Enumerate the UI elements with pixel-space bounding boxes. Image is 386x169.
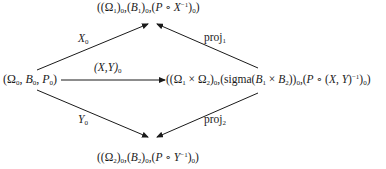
sigma-algebra-symbol: B	[131, 1, 138, 13]
omega-symbol: Ω	[105, 151, 114, 163]
edge-label-x0: X0	[78, 33, 89, 46]
subscript: 0	[214, 79, 218, 87]
sigma-function: sigma	[224, 73, 251, 85]
subscript: 2	[113, 157, 117, 165]
subscript: 2	[207, 79, 211, 87]
omega-symbol: Ω	[174, 73, 183, 85]
edge-label-main: (X,Y)	[94, 61, 118, 73]
subscript: 2	[223, 119, 227, 127]
subscript: 2	[138, 157, 142, 165]
subscript: 0	[50, 79, 54, 87]
subscript: 0	[121, 157, 125, 165]
edge-label-main: X	[78, 32, 85, 44]
node-top-space: ((Ω1)0,(B1)0,(P ∘ X−1)0)	[97, 2, 199, 15]
subscript: 0	[84, 119, 88, 127]
compose-operator: ∘	[165, 1, 171, 13]
node-left-space: (Ω0, B0, P0)	[3, 73, 57, 87]
measure-symbol: P	[155, 151, 162, 163]
edge-label-proj1: proj1	[204, 32, 226, 45]
commutative-diagram: ((Ω1)0,(B1)0,(P ∘ X−1)0) (Ω0, B0, P0) ((…	[0, 0, 386, 169]
subscript: 0	[296, 79, 300, 87]
edge-label-y0: Y0	[78, 114, 88, 127]
measure-symbol: P	[155, 1, 162, 13]
edge-label-xy0: (X,Y)0	[94, 62, 121, 75]
measure-symbol: P	[307, 73, 314, 85]
superscript: −1	[180, 151, 187, 159]
subscript: 0	[85, 38, 89, 46]
subscript: 1	[138, 7, 142, 15]
subscript: 0	[363, 79, 367, 87]
subscript: 0	[118, 67, 122, 75]
subscript: 1	[182, 79, 186, 87]
times-operator: ×	[269, 73, 276, 85]
subscript: 0	[121, 7, 125, 15]
superscript: −1	[181, 1, 188, 9]
subscript: 1	[223, 37, 227, 45]
subscript: 0	[33, 79, 37, 87]
edge-label-proj2: proj2	[204, 114, 226, 127]
compose-operator: ∘	[317, 73, 323, 85]
edge-label-main: proj	[204, 113, 223, 125]
subscript: 1	[113, 7, 117, 15]
variable-x: X	[329, 73, 336, 85]
edge-label-main: proj	[204, 31, 223, 43]
subscript: 0	[145, 7, 149, 15]
omega-symbol: Ω	[198, 73, 207, 85]
arrow-y0	[37, 90, 148, 137]
sigma-algebra-symbol: B	[131, 151, 138, 163]
subscript: 2	[285, 79, 289, 87]
variable-y: Y	[342, 73, 348, 85]
subscript: 0	[16, 79, 20, 87]
arrow-x0	[37, 24, 148, 70]
subscript: 0	[192, 7, 196, 15]
times-operator: ×	[189, 73, 196, 85]
omega-symbol: Ω	[7, 72, 16, 86]
node-bottom-space: ((Ω2)0,(B2)0,(P ∘ Y−1)0)	[97, 152, 199, 165]
omega-symbol: Ω	[105, 1, 114, 13]
node-right-product-space: ((Ω1 × Ω2)0,(sigma(B1 × B2))0,(P ∘ (X, Y…	[166, 74, 371, 87]
variable-x: X	[174, 1, 181, 13]
subscript: 1	[262, 79, 266, 87]
subscript: 0	[192, 157, 196, 165]
sigma-algebra-symbol: B	[25, 72, 32, 86]
compose-operator: ∘	[165, 151, 171, 163]
measure-symbol: P	[42, 72, 49, 86]
subscript: 0	[145, 157, 149, 165]
superscript: −1	[352, 73, 359, 81]
